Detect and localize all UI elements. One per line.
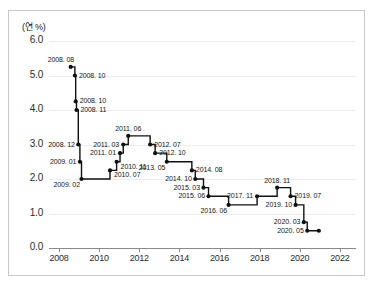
data-point-label: 2017. 11 [227,192,253,200]
data-point-marker [255,194,259,198]
data-point-label: 2019. 07 [295,192,321,200]
data-point-label: 2011. 03 [93,141,119,149]
data-point-marker [206,194,210,198]
data-point-label: 2012. 07 [154,141,180,149]
data-point-label: 2016. 06 [201,207,227,215]
chart-frame: (연 %) 0.01.02.03.04.05.06.0 200820102012… [8,10,365,276]
data-point-marker [294,203,298,207]
data-point-marker [317,229,321,233]
data-point-label: 2008. 12 [48,141,74,149]
data-point-label: 2012. 10 [159,149,185,157]
data-point-marker [275,186,279,190]
data-point-label: 2010. 07 [114,171,140,179]
data-point-marker [226,203,230,207]
data-point-marker [118,151,122,155]
data-point-label: 2008. 11 [80,106,106,114]
data-point-marker [305,229,309,233]
data-point-marker [74,108,78,112]
data-point-marker [74,99,78,103]
data-point-marker [190,168,194,172]
data-point-label: 2009. 01 [50,158,76,166]
data-point-marker [288,194,292,198]
data-point-marker [78,160,82,164]
data-point-label: 2008. 08 [48,56,74,64]
data-point-label: 2009. 02 [54,181,80,189]
data-point-marker [73,73,77,77]
data-point-label: 2020. 03 [274,218,300,226]
data-point-marker [148,142,152,146]
data-point-label: 2008. 10 [79,72,105,80]
data-point-label: 2011. 01 [90,149,116,157]
data-point-marker [115,160,119,164]
data-point-marker [121,142,125,146]
data-point-label: 2020. 05 [277,227,303,235]
data-point-marker [153,151,157,155]
data-point-label: 2019. 10 [266,201,292,209]
data-point-marker [79,177,83,181]
data-point-label: 2015. 06 [179,192,205,200]
data-point-marker [108,168,112,172]
data-point-label: 2013. 05 [139,164,165,172]
data-point-label: 2008. 10 [80,97,106,105]
plot-area: (연 %) 0.01.02.03.04.05.06.0 200820102012… [9,11,366,277]
data-point-label: 2015. 03 [174,184,200,192]
data-point-label: 2011. 06 [115,125,141,133]
data-point-label: 2018. 11 [264,177,290,185]
data-point-label: 2014. 08 [196,166,222,174]
data-point-marker [193,177,197,181]
data-point-marker [76,142,80,146]
data-point-marker [165,160,169,164]
data-point-marker [126,134,130,138]
data-point-label: 2014. 10 [165,175,191,183]
data-point-marker [69,65,73,69]
data-point-marker [201,186,205,190]
data-point-marker [302,220,306,224]
